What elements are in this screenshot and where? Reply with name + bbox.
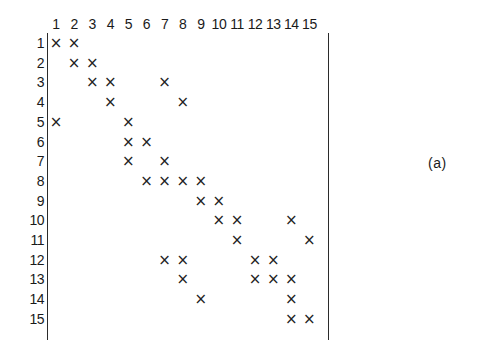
row-header-15: 15 <box>24 311 44 327</box>
mark-r10-c11: × <box>228 213 246 228</box>
mark-r9-c9: × <box>192 194 210 209</box>
mark-r7-c7: × <box>156 154 174 169</box>
column-header-13: 13 <box>264 16 282 32</box>
column-header-8: 8 <box>174 16 192 32</box>
left-axis-line <box>47 33 48 340</box>
mark-r15-c14: × <box>282 312 300 327</box>
column-header-12: 12 <box>246 16 264 32</box>
row-header-3: 3 <box>24 74 44 90</box>
row-header-6: 6 <box>24 134 44 150</box>
mark-r7-c5: × <box>119 154 137 169</box>
row-header-5: 5 <box>24 114 44 130</box>
mark-r8-c8: × <box>174 174 192 189</box>
row-header-11: 11 <box>24 232 44 248</box>
panel-label: (a) <box>428 155 447 171</box>
column-header-11: 11 <box>228 16 246 32</box>
row-header-13: 13 <box>24 271 44 287</box>
column-header-3: 3 <box>83 16 101 32</box>
column-header-2: 2 <box>65 16 83 32</box>
row-header-7: 7 <box>24 153 44 169</box>
mark-r4-c4: × <box>101 95 119 110</box>
mark-r12-c13: × <box>264 253 282 268</box>
row-header-4: 4 <box>24 94 44 110</box>
row-header-8: 8 <box>24 173 44 189</box>
mark-r2-c3: × <box>83 56 101 71</box>
mark-r5-c1: × <box>47 115 65 130</box>
row-header-14: 14 <box>24 291 44 307</box>
mark-r3-c3: × <box>83 75 101 90</box>
mark-r13-c8: × <box>174 272 192 287</box>
mark-r13-c13: × <box>264 272 282 287</box>
mark-r14-c14: × <box>282 292 300 307</box>
mark-r12-c7: × <box>156 253 174 268</box>
mark-r13-c14: × <box>282 272 300 287</box>
row-header-9: 9 <box>24 193 44 209</box>
mark-r10-c14: × <box>282 213 300 228</box>
mark-r6-c6: × <box>138 135 156 150</box>
mark-r11-c11: × <box>228 233 246 248</box>
mark-r13-c12: × <box>246 272 264 287</box>
column-header-15: 15 <box>300 16 318 32</box>
mark-r15-c15: × <box>300 312 318 327</box>
column-header-7: 7 <box>156 16 174 32</box>
row-header-1: 1 <box>24 35 44 51</box>
mark-r1-c1: × <box>47 36 65 51</box>
mark-r8-c9: × <box>192 174 210 189</box>
mark-r3-c4: × <box>101 75 119 90</box>
column-header-1: 1 <box>47 16 65 32</box>
row-header-10: 10 <box>24 212 44 228</box>
mark-r9-c10: × <box>210 194 228 209</box>
row-header-2: 2 <box>24 55 44 71</box>
column-header-14: 14 <box>282 16 300 32</box>
right-axis-line <box>328 33 329 340</box>
mark-r3-c7: × <box>156 75 174 90</box>
incidence-matrix-figure: 123456789101112131415 123456789101112131… <box>0 0 499 351</box>
mark-r8-c6: × <box>138 174 156 189</box>
column-header-4: 4 <box>101 16 119 32</box>
column-header-9: 9 <box>192 16 210 32</box>
mark-r11-c15: × <box>300 233 318 248</box>
mark-r1-c2: × <box>65 36 83 51</box>
row-header-12: 12 <box>24 252 44 268</box>
mark-r6-c5: × <box>119 135 137 150</box>
mark-r8-c7: × <box>156 174 174 189</box>
mark-r10-c10: × <box>210 213 228 228</box>
mark-r5-c5: × <box>119 115 137 130</box>
mark-r14-c9: × <box>192 292 210 307</box>
mark-r4-c8: × <box>174 95 192 110</box>
column-header-6: 6 <box>138 16 156 32</box>
mark-r12-c12: × <box>246 253 264 268</box>
column-header-5: 5 <box>119 16 137 32</box>
mark-r12-c8: × <box>174 253 192 268</box>
mark-r2-c2: × <box>65 56 83 71</box>
column-header-10: 10 <box>210 16 228 32</box>
